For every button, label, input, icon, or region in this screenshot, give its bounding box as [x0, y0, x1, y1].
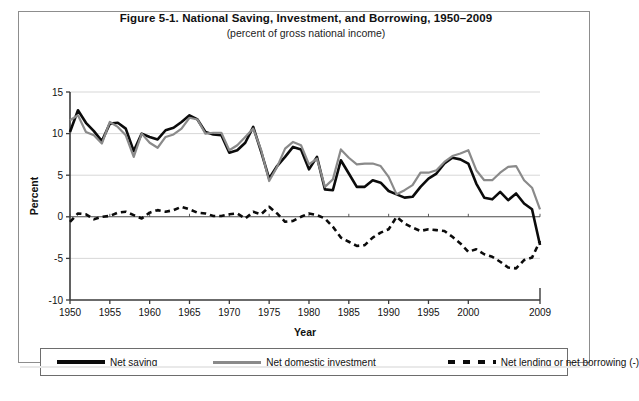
- title-block: Figure 5-1. National Saving, Investment,…: [0, 12, 612, 39]
- legend-swatch-line-icon: [213, 361, 261, 364]
- page-title: Figure 5-1. National Saving, Investment,…: [0, 12, 612, 24]
- legend-swatch-dashed-line-icon: [448, 360, 496, 364]
- chart-legend: Net saving Net domestic investment Net l…: [40, 348, 568, 376]
- page-edge-shadow: [20, 366, 590, 368]
- figure-frame: [18, 11, 590, 363]
- legend-swatch-line-icon: [57, 360, 105, 364]
- chart-subtitle: (percent of gross national income): [0, 27, 612, 39]
